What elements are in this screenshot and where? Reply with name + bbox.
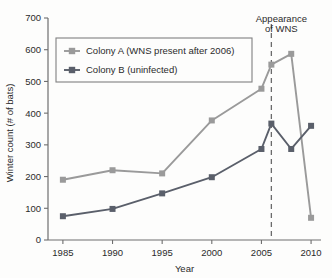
x-tick-label: 2010 [301, 247, 322, 258]
y-tick-label: 600 [25, 44, 41, 55]
data-point-marker[interactable] [268, 62, 274, 68]
x-tick-label: 2000 [201, 247, 222, 258]
y-tick-label: 400 [25, 108, 41, 119]
data-point-marker[interactable] [110, 167, 116, 173]
chart-canvas: 0100200300400500600700198519901995200020… [0, 0, 332, 278]
legend-label-1: Colony A (WNS present after 2006) [86, 45, 234, 56]
annotation-line-2: of WNS [265, 23, 298, 34]
data-point-marker[interactable] [159, 170, 165, 176]
data-point-marker[interactable] [60, 177, 66, 183]
data-point-marker[interactable] [159, 190, 165, 196]
data-point-marker[interactable] [288, 51, 294, 57]
data-point-marker[interactable] [60, 213, 66, 219]
x-axis-title: Year [175, 263, 194, 274]
y-tick-label: 0 [36, 234, 41, 245]
data-point-marker[interactable] [308, 215, 314, 221]
data-point-marker[interactable] [110, 206, 116, 212]
series-line-2 [63, 124, 311, 217]
x-tick-label: 1985 [52, 247, 73, 258]
data-point-marker[interactable] [209, 174, 215, 180]
data-point-marker[interactable] [258, 86, 264, 92]
x-tick-label: 2005 [251, 247, 272, 258]
x-tick-label: 1995 [152, 247, 173, 258]
x-tick-label: 1990 [102, 247, 123, 258]
legend-marker-2 [69, 67, 75, 73]
legend-marker-1 [69, 48, 75, 54]
data-point-marker[interactable] [288, 146, 294, 152]
y-tick-label: 100 [25, 203, 41, 214]
y-tick-label: 500 [25, 76, 41, 87]
data-point-marker[interactable] [308, 123, 314, 129]
y-tick-label: 300 [25, 139, 41, 150]
bat-winter-count-chart: 0100200300400500600700198519901995200020… [0, 0, 332, 278]
y-axis-title: Winter count (# of bats) [4, 84, 15, 183]
legend-label-2: Colony B (uninfected) [86, 64, 177, 75]
data-point-marker[interactable] [209, 117, 215, 123]
data-point-marker[interactable] [258, 146, 264, 152]
y-tick-label: 700 [25, 12, 41, 23]
y-tick-label: 200 [25, 171, 41, 182]
data-point-marker[interactable] [268, 121, 274, 127]
